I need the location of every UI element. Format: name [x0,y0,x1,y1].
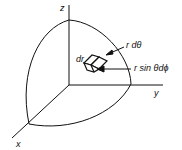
dr-label: dr [76,54,85,64]
arrow-r-sin-theta-dphi [97,66,131,72]
z-axis-label: z [59,3,65,13]
x-axis-label: x [15,139,21,149]
r-dtheta-label: r dθ [126,40,142,50]
arc-xy [29,84,131,126]
x-axis [12,85,69,138]
arc-zy [69,20,131,84]
y-axis-label: y [153,88,159,98]
r-sin-theta-dphi-label: r sin θdϕ [134,63,168,73]
spherical-diagram: z y x dr r dθ r sin θdϕ [0,0,182,150]
arc-zx [26,20,69,124]
